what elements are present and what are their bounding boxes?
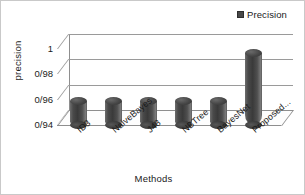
x-axis-title: Methods [1, 173, 305, 184]
y-tick-label: 0/94 [19, 120, 53, 130]
y-axis-tick-labels: 10/980/960/94 [13, 25, 53, 125]
plot-area [57, 25, 293, 125]
legend-swatch-precision-icon [237, 11, 244, 18]
bar-body [245, 53, 262, 125]
bar-series-precision [57, 25, 293, 126]
x-axis-category-labels: ID3NaiveBayesJ48NBTreeBayesNetProposed..… [57, 127, 305, 173]
bar-proposed [245, 49, 262, 125]
y-tick-label: 0/96 [19, 95, 53, 105]
y-tick-label: 1 [19, 44, 53, 54]
y-tick-label: 0/98 [19, 69, 53, 79]
chart-container: Precision precision Methods 10/980/960/9… [0, 0, 305, 195]
chart-legend: Precision [237, 9, 287, 20]
bar-top-ellipse [245, 49, 262, 57]
legend-label-precision: Precision [247, 9, 287, 20]
